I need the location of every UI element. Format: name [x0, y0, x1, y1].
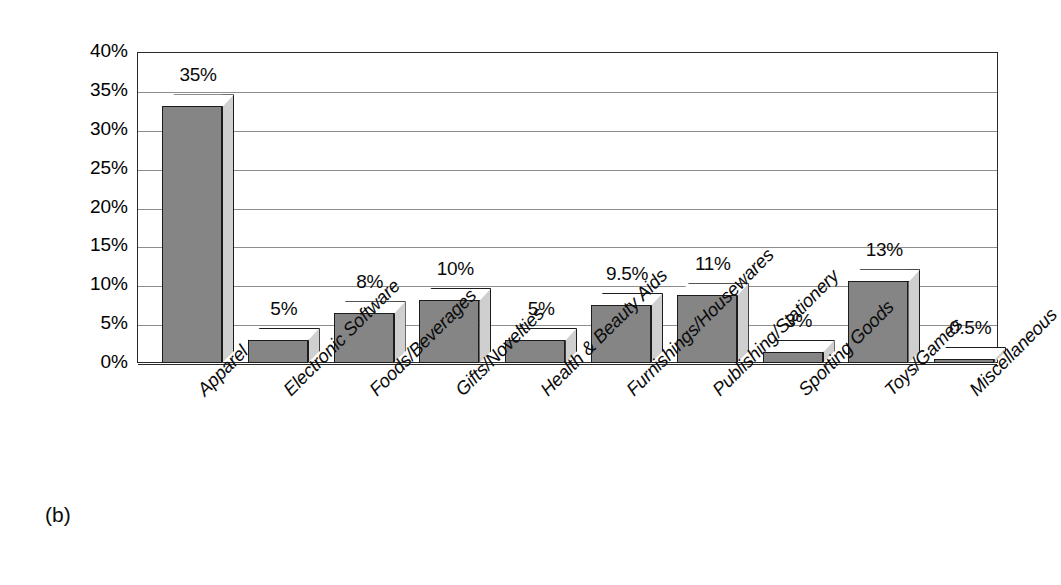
bar-front-face: [763, 352, 823, 363]
bar-value-label: 35%: [140, 64, 256, 86]
bar-value-label: 5%: [226, 298, 342, 320]
bar-front-face: [162, 106, 222, 363]
figure-caption: (b): [45, 503, 71, 527]
bar-value-label: 10%: [397, 258, 513, 280]
bar-side-face: [222, 94, 234, 363]
bar-front-face: [248, 340, 308, 363]
bar-column: [162, 94, 234, 363]
bar-front-face: [934, 359, 994, 363]
bar-value-label: 13%: [826, 239, 942, 261]
